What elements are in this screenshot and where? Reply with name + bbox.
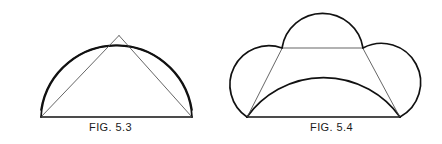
figure-plate: FIG. 5.3 FIG. 5.4 [0, 0, 442, 144]
right-chord [363, 49, 400, 117]
left-chord [248, 49, 283, 117]
base-arc [247, 78, 400, 117]
figure-5-4-caption: FIG. 5.4 [221, 121, 442, 133]
figure-5-3-caption: FIG. 5.3 [0, 121, 221, 133]
figure-5-4-drawing [0, 0, 442, 120]
top-semicircle [282, 13, 363, 48]
